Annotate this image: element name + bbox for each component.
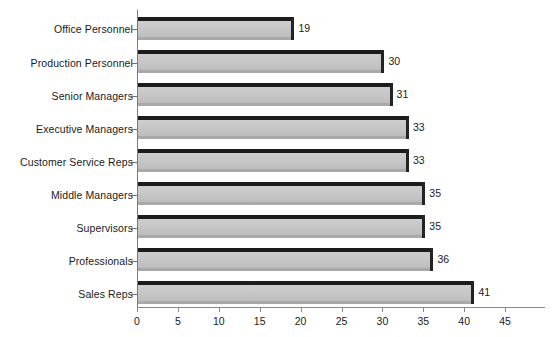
- y-axis-tick-8: [131, 294, 137, 295]
- bar-end-cap: [390, 83, 393, 106]
- x-axis-tick-label-7: 35: [417, 315, 429, 327]
- bar-end-cap: [422, 182, 425, 205]
- y-axis-label-5: Middle Managers: [51, 189, 133, 201]
- y-axis-label-7: Professionals: [69, 255, 133, 267]
- bar-end-cap: [291, 17, 294, 40]
- bar-value-5: 35: [429, 187, 441, 199]
- y-axis-tick-7: [131, 261, 137, 262]
- bar-bottom-edge: [138, 202, 424, 205]
- x-axis-tick-4: [301, 307, 302, 312]
- x-axis-tick-3: [260, 307, 261, 312]
- y-axis-label-8: Sales Reps: [78, 288, 133, 300]
- bar-end-cap: [406, 116, 409, 139]
- y-axis-tick-4: [131, 162, 137, 163]
- bar-body: [138, 54, 383, 70]
- y-axis-label-4: Customer Service Reps: [20, 156, 133, 168]
- bar-3: [138, 116, 408, 139]
- x-axis-tick-8: [464, 307, 465, 312]
- bar-4: [138, 149, 408, 172]
- y-axis-label-6: Supervisors: [76, 222, 133, 234]
- y-axis-label-2: Senior Managers: [52, 90, 133, 102]
- bar-bottom-edge: [138, 70, 383, 73]
- bar-body: [138, 219, 424, 235]
- x-axis-tick-label-1: 5: [175, 315, 181, 327]
- y-axis-label-3: Executive Managers: [36, 123, 133, 135]
- x-axis-tick-6: [382, 307, 383, 312]
- x-axis-tick-label-9: 45: [499, 315, 511, 327]
- bar-7: [138, 248, 432, 271]
- bar-1: [138, 50, 383, 73]
- y-axis-tick-0: [131, 29, 137, 30]
- bar-bottom-edge: [138, 169, 408, 172]
- y-axis-tick-6: [131, 228, 137, 229]
- y-axis-tick-2: [131, 96, 137, 97]
- bar-value-3: 33: [413, 121, 425, 133]
- bar-value-6: 35: [429, 220, 441, 232]
- bar-value-1: 30: [388, 55, 400, 67]
- bar-bottom-edge: [138, 37, 293, 40]
- x-axis-tick-7: [423, 307, 424, 312]
- bar-5: [138, 182, 424, 205]
- bar-value-4: 33: [413, 154, 425, 166]
- x-axis-tick-5: [342, 307, 343, 312]
- x-axis-tick-label-4: 20: [295, 315, 307, 327]
- bar-body: [138, 120, 408, 136]
- bar-bottom-edge: [138, 235, 424, 238]
- bar-bottom-edge: [138, 103, 392, 106]
- y-axis-tick-1: [131, 63, 137, 64]
- bar-bottom-edge: [138, 136, 408, 139]
- y-axis-label-0: Office Personnel: [54, 23, 133, 35]
- bar-end-cap: [422, 215, 425, 238]
- bar-value-7: 36: [437, 253, 449, 265]
- x-axis-tick-label-6: 30: [377, 315, 389, 327]
- bar-bottom-edge: [138, 301, 473, 304]
- y-axis-label-1: Production Personnel: [31, 57, 133, 69]
- bar-body: [138, 21, 293, 37]
- x-axis-tick-2: [219, 307, 220, 312]
- x-axis-tick-label-2: 10: [213, 315, 225, 327]
- bar-body: [138, 87, 392, 103]
- bar-bottom-edge: [138, 268, 432, 271]
- x-axis-tick-1: [178, 307, 179, 312]
- bar-end-cap: [406, 149, 409, 172]
- bar-end-cap: [471, 281, 474, 304]
- x-axis-tick-0: [137, 307, 138, 312]
- bar-2: [138, 83, 392, 106]
- x-axis-tick-label-3: 15: [254, 315, 266, 327]
- bar-0: [138, 17, 293, 40]
- bar-value-2: 31: [397, 88, 409, 100]
- y-axis-tick-3: [131, 129, 137, 130]
- bar-value-0: 19: [298, 22, 310, 34]
- bar-end-cap: [430, 248, 433, 271]
- bar-chart: Office Personnel Production Personnel Se…: [0, 0, 552, 337]
- bar-body: [138, 285, 473, 301]
- bar-end-cap: [381, 50, 384, 73]
- x-axis-tick-label-0: 0: [134, 315, 140, 327]
- bar-8: [138, 281, 473, 304]
- bar-6: [138, 215, 424, 238]
- y-axis-tick-5: [131, 195, 137, 196]
- bar-body: [138, 252, 432, 268]
- x-axis-tick-label-8: 40: [458, 315, 470, 327]
- x-axis-tick-label-5: 25: [336, 315, 348, 327]
- bar-body: [138, 153, 408, 169]
- bar-body: [138, 186, 424, 202]
- bar-value-8: 41: [478, 286, 490, 298]
- x-axis-tick-9: [505, 307, 506, 312]
